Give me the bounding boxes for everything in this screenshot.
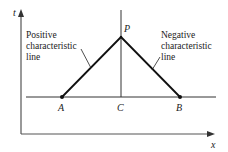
negative-annotation: Negative characteristic line [152, 30, 212, 70]
negative-annotation-line-3: line [161, 52, 175, 62]
negative-annotation-line-1: Negative [161, 30, 195, 40]
x-axis-label: x [210, 139, 216, 150]
point-a-label: A [57, 102, 65, 113]
positive-leader-line [81, 49, 91, 68]
t-axis: t [13, 7, 24, 134]
point-b-label: B [176, 102, 182, 113]
x-axis: x [21, 131, 216, 150]
point-c-label: C [117, 102, 124, 113]
t-axis-arrow-icon [18, 9, 24, 17]
x-axis-arrow-icon [207, 131, 215, 137]
characteristic-lines-diagram: t x A C B P Positive characteristic line… [0, 0, 228, 152]
point-p-marker [120, 36, 122, 38]
point-b-marker [178, 95, 182, 99]
positive-annotation-line-1: Positive [26, 30, 57, 40]
positive-annotation: Positive characteristic line [26, 30, 91, 68]
positive-annotation-line-2: characteristic [26, 41, 77, 51]
positive-annotation-line-3: line [26, 52, 40, 62]
negative-annotation-line-2: characteristic [161, 41, 212, 51]
point-a-marker [60, 95, 64, 99]
negative-leader-line [152, 57, 160, 70]
point-p-label: P [123, 23, 130, 34]
t-axis-label: t [13, 7, 16, 18]
